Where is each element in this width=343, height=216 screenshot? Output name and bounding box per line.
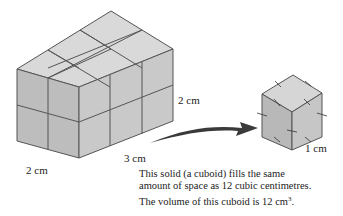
large-cuboid <box>17 11 173 158</box>
caption-line-2: The volume of this cuboid is 12 cm3. <box>139 196 311 208</box>
caption-period: . <box>292 196 295 207</box>
caption-line-1b: amount of space as 12 cubic centimetres. <box>139 180 311 191</box>
caption: This solid (a cuboid) fills the same amo… <box>139 168 311 208</box>
arrow-icon <box>150 122 258 143</box>
unit-cube <box>257 75 327 150</box>
caption-line-1: This solid (a cuboid) fills the same amo… <box>139 168 311 192</box>
caption-line-2-text: The volume of this cuboid is 12 cm <box>139 196 288 207</box>
length-label: 3 cm <box>124 152 146 164</box>
height-label: 2 cm <box>178 94 200 106</box>
caption-line-1a: This solid (a cuboid) fills the same <box>139 168 285 179</box>
width-label: 2 cm <box>26 164 48 176</box>
unit-label: 1 cm <box>305 142 327 154</box>
